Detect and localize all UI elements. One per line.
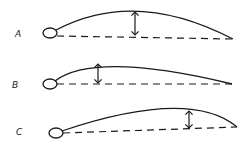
leading-edge-icon [49, 128, 63, 138]
profile-a [43, 11, 233, 39]
profile-c [49, 108, 237, 138]
airfoil-diagram [0, 0, 248, 147]
profile-b [43, 64, 233, 89]
leading-edge-icon [43, 28, 57, 38]
